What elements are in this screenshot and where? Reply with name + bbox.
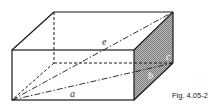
- cuboid-diagram: e a b c Fig. 4.05-2: [0, 0, 215, 112]
- label-a: a: [70, 88, 75, 99]
- figure-caption: Fig. 4.05-2: [172, 91, 208, 100]
- label-c: c: [166, 51, 171, 62]
- label-b: b: [148, 70, 153, 81]
- label-e: e: [102, 36, 107, 47]
